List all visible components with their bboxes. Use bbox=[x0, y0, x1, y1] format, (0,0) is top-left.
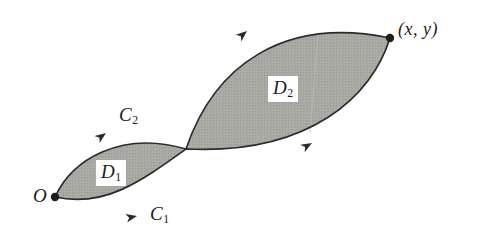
curve-label-C1: C1 bbox=[150, 204, 169, 225]
curve-label-C2: C2 bbox=[119, 105, 138, 126]
arrowhead-curve-C1-upper-loop bbox=[300, 139, 314, 152]
region-label-D1-base: D bbox=[101, 161, 115, 182]
region-label-D1-subscript: 1 bbox=[115, 171, 121, 184]
region-label-D2-subscript: 2 bbox=[287, 87, 293, 100]
curve-label-C2-subscript: 2 bbox=[132, 114, 138, 127]
region-label-D2: D2 bbox=[268, 76, 298, 102]
arrowhead-curve-C2-lower-loop bbox=[95, 129, 109, 143]
origin-label: O bbox=[33, 186, 47, 205]
origin-point-marker bbox=[51, 193, 59, 201]
region-label-D1: D1 bbox=[96, 160, 126, 186]
region-label-D2-base: D bbox=[273, 77, 287, 98]
endpoint-point-marker bbox=[386, 34, 394, 42]
endpoint-label: (x, y) bbox=[398, 20, 438, 38]
curve-label-C1-base: C bbox=[150, 203, 163, 224]
arrowhead-curve-C1-lower-loop bbox=[125, 212, 138, 223]
curve-label-C1-subscript: 1 bbox=[163, 213, 169, 226]
curve-label-C2-base: C bbox=[119, 104, 132, 125]
figure-container: D1 D2 C2 C1 O (x, y) bbox=[0, 0, 482, 239]
arrowhead-curve-C2-upper-loop bbox=[236, 28, 250, 42]
